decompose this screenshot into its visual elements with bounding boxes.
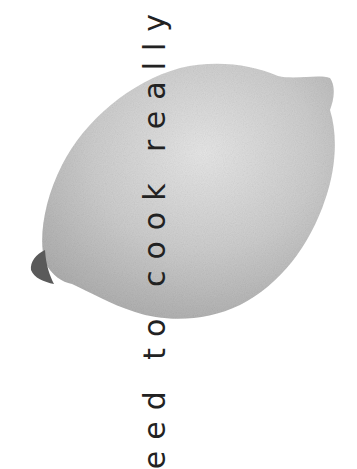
caption-text: eed to cook really w	[140, 0, 170, 469]
lemon-body	[42, 64, 335, 319]
